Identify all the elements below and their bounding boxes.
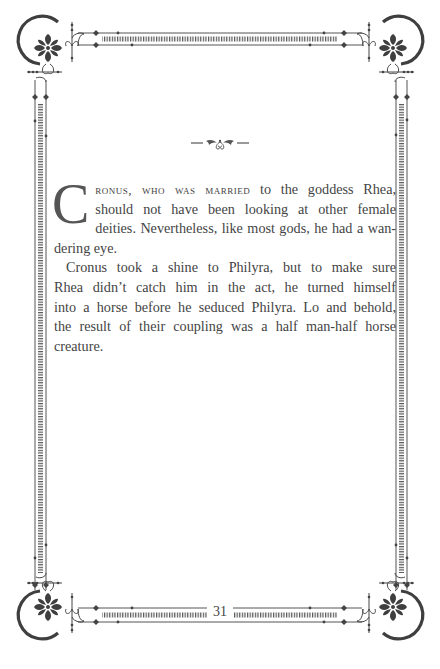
corner-flourish-top-left-icon — [18, 16, 84, 82]
drop-cap: C — [52, 182, 89, 226]
page-number-label: 31 — [207, 604, 233, 619]
text-line: ronus, who was married to the goddess Rh… — [54, 180, 396, 200]
paragraph-2: Cronus took a shine to Philyra, but to m… — [54, 258, 396, 356]
scroll-ornament — [0, 134, 440, 154]
corner-flourish-top-right-icon — [357, 16, 423, 82]
text-line: dering eye. — [54, 239, 396, 259]
text-line: should not have been looking at other fe… — [54, 200, 396, 220]
text-line: Rhea didn’t catch him in the act, he tur… — [54, 278, 396, 298]
text-line: creature. — [54, 337, 396, 357]
smallcaps-lead: ronus, who was married — [95, 182, 250, 197]
text-line: deities. Nevertheless, like most gods, h… — [54, 219, 396, 239]
text-line: into a horse before he seduced Philyra. … — [54, 298, 396, 318]
paragraph-1: C ronus, who was married to the goddess … — [54, 180, 396, 258]
scroll-ornament-icon — [190, 134, 250, 154]
text-line: the result of their coupling was a half … — [54, 317, 396, 337]
page-number: 31 — [0, 604, 440, 620]
body-text: C ronus, who was married to the goddess … — [54, 180, 396, 356]
text-line: Cronus took a shine to Philyra, but to m… — [54, 258, 396, 278]
